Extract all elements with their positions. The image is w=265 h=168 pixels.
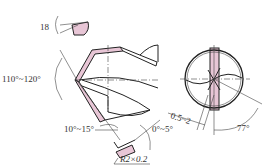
clearance-angle-label: 10°~15°: [64, 124, 94, 134]
rake-angle-label: 0°~5°: [152, 124, 173, 134]
upper-lip-land: [75, 47, 123, 82]
flute-curve-2: [82, 80, 150, 116]
point-angle-label: 110°~120°: [2, 74, 41, 84]
drill-end-view: 77° 0.5~2: [168, 45, 262, 135]
radius-label: R2×0.2: [119, 154, 148, 164]
upper-body-end: [156, 62, 157, 66]
chisel-section-shape: [72, 22, 89, 35]
upper-body-edge: [120, 47, 157, 62]
lip-detail: 10°~15° 0°~5° R2×0.2: [64, 120, 173, 164]
end-angle-label: 77°: [237, 123, 250, 133]
chisel-angle-label: 18: [40, 22, 50, 32]
web-dim-line-1: [197, 95, 208, 130]
end-angle-line: [214, 79, 262, 104]
chisel-detail: 18: [40, 16, 89, 35]
lower-body-edge: [105, 110, 150, 120]
upper-body-edge-2: [123, 51, 156, 66]
radius-leader-2: [114, 158, 118, 164]
chisel-angle-arc: [56, 16, 59, 34]
drill-diagram: 18 110°~120° 10°~15° 0°~5°: [0, 0, 265, 168]
end-angle-arc: [214, 108, 258, 130]
point-angle-arc: [55, 58, 62, 100]
point-angle-line-1: [60, 50, 78, 82]
